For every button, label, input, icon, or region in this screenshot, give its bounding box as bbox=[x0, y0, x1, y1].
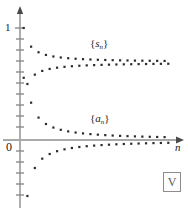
data-point bbox=[112, 134, 114, 136]
data-point bbox=[167, 63, 169, 65]
data-point bbox=[75, 58, 77, 60]
sn-brace-close: } bbox=[103, 37, 108, 49]
data-point bbox=[37, 51, 39, 53]
x-axis-label: n bbox=[175, 142, 181, 153]
data-point bbox=[56, 67, 58, 69]
data-point bbox=[112, 59, 114, 61]
data-point bbox=[41, 70, 43, 72]
data-point bbox=[156, 60, 158, 62]
series-an-points bbox=[23, 77, 170, 197]
sn-subscript: n bbox=[100, 43, 104, 51]
data-point bbox=[130, 143, 132, 145]
data-point bbox=[160, 63, 162, 65]
data-point bbox=[71, 147, 73, 149]
data-point bbox=[149, 60, 151, 62]
data-point bbox=[23, 27, 25, 29]
data-point bbox=[100, 144, 102, 146]
origin-label: 0 bbox=[6, 141, 12, 153]
an-brace-close: } bbox=[104, 112, 109, 124]
data-point bbox=[82, 58, 84, 60]
data-point bbox=[149, 136, 151, 138]
data-point bbox=[104, 59, 106, 61]
data-point bbox=[78, 146, 80, 148]
data-point bbox=[30, 46, 32, 48]
data-point bbox=[93, 145, 95, 147]
data-point bbox=[104, 134, 106, 136]
data-point bbox=[115, 143, 117, 145]
an-subscript: n bbox=[101, 118, 105, 126]
data-point bbox=[52, 55, 54, 57]
data-point bbox=[126, 59, 128, 61]
data-point bbox=[123, 143, 125, 145]
data-point bbox=[34, 167, 36, 169]
data-point bbox=[82, 132, 84, 134]
data-point bbox=[141, 136, 143, 138]
data-point bbox=[108, 144, 110, 146]
data-point bbox=[115, 63, 117, 65]
data-point bbox=[100, 64, 102, 66]
data-point bbox=[138, 63, 140, 65]
data-point bbox=[145, 142, 147, 144]
y-axis-tick-label-one: 1 bbox=[5, 22, 11, 33]
data-point bbox=[163, 60, 165, 62]
data-point bbox=[71, 65, 73, 67]
data-point bbox=[119, 59, 121, 61]
sn-symbol: s bbox=[95, 37, 99, 49]
data-point bbox=[63, 66, 65, 68]
data-point bbox=[67, 57, 69, 59]
data-point bbox=[141, 60, 143, 62]
data-point bbox=[119, 135, 121, 137]
data-point bbox=[130, 63, 132, 65]
data-point bbox=[89, 58, 91, 60]
data-point bbox=[41, 158, 43, 160]
series-label-an: {an} bbox=[90, 113, 110, 124]
data-point bbox=[52, 126, 54, 128]
data-point bbox=[49, 68, 51, 70]
data-point bbox=[108, 64, 110, 66]
data-point bbox=[123, 63, 125, 65]
data-point bbox=[145, 63, 147, 65]
data-point bbox=[26, 83, 28, 85]
chart-figure: 1 0 n {sn} {an} V bbox=[0, 0, 188, 210]
watermark-box: V bbox=[163, 172, 181, 192]
data-point bbox=[160, 142, 162, 144]
data-point bbox=[152, 142, 154, 144]
data-point bbox=[97, 59, 99, 61]
data-point bbox=[49, 153, 51, 155]
data-point bbox=[45, 123, 47, 125]
watermark-glyph: V bbox=[168, 176, 177, 188]
data-point bbox=[60, 56, 62, 58]
data-point bbox=[134, 60, 136, 62]
data-point bbox=[23, 77, 25, 79]
an-symbol: a bbox=[95, 112, 101, 124]
data-point bbox=[86, 145, 88, 147]
plot-canvas bbox=[0, 0, 188, 210]
series-label-sn: {sn} bbox=[90, 38, 108, 49]
data-point bbox=[134, 135, 136, 137]
data-point bbox=[93, 64, 95, 66]
data-point bbox=[138, 142, 140, 144]
data-point bbox=[63, 148, 65, 150]
data-point bbox=[26, 195, 28, 197]
data-point bbox=[45, 54, 47, 56]
data-point bbox=[60, 129, 62, 131]
data-point bbox=[56, 150, 58, 152]
data-point bbox=[30, 102, 32, 104]
y-axis-arrowhead bbox=[17, 6, 23, 14]
data-point bbox=[152, 63, 154, 65]
series-sn-points bbox=[23, 27, 170, 85]
data-point bbox=[78, 65, 80, 67]
data-point bbox=[37, 117, 39, 119]
data-point bbox=[156, 136, 158, 138]
data-point bbox=[167, 142, 169, 144]
data-point bbox=[89, 133, 91, 135]
data-point bbox=[34, 74, 36, 76]
data-point bbox=[67, 130, 69, 132]
data-point bbox=[75, 131, 77, 133]
data-point bbox=[97, 134, 99, 136]
data-point bbox=[163, 136, 165, 138]
data-point bbox=[86, 64, 88, 66]
data-point bbox=[126, 135, 128, 137]
